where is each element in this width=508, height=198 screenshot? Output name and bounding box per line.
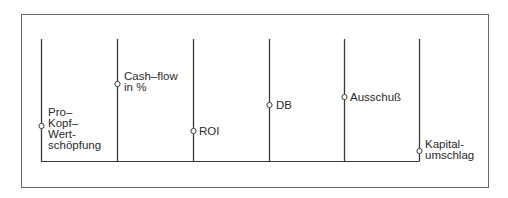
marker-pro-kopf [39, 123, 44, 128]
marker-kapitalumschlag [417, 148, 422, 153]
label-roi: ROI [199, 126, 219, 137]
marker-cash-flow [115, 81, 120, 86]
marker-db [267, 102, 272, 107]
label-cash-flow: Cash–flow in % [124, 71, 178, 93]
marker-roi [191, 128, 196, 133]
label-pro-kopf-wertschoepfung: Pro– Kopf– Wert- schöpfung [48, 107, 101, 151]
label-kapitalumschlag: Kapital- umschlag [425, 139, 474, 161]
marker-ausschuss [342, 94, 347, 99]
label-ausschuss: Ausschuß [350, 92, 401, 103]
indicator-profile-diagram [0, 0, 508, 198]
label-db: DB [276, 100, 292, 111]
